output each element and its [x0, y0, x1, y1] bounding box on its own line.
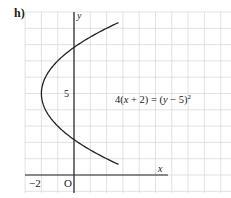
y-tick-label-5: 5	[64, 88, 69, 99]
x-axis-label: x	[158, 163, 162, 174]
eq-exponent: 2	[188, 93, 192, 101]
eq-part: − 5)	[168, 94, 188, 105]
origin-label: O	[64, 177, 72, 189]
part-label: h)	[14, 6, 25, 21]
equation-label: 4(x + 2) = (y − 5)2	[115, 94, 191, 105]
eq-part: 4(	[115, 94, 124, 105]
eq-part: + 2) = (	[128, 94, 163, 105]
y-axis-label: y	[77, 10, 81, 21]
x-tick-label-neg2: −2	[29, 177, 41, 189]
